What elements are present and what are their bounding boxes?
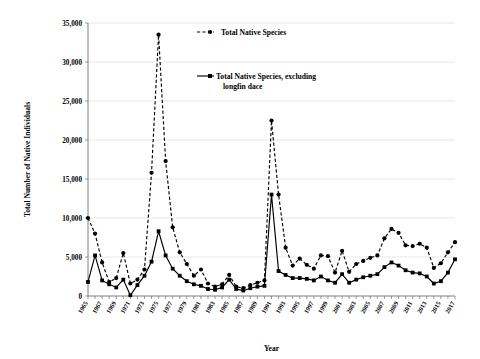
data-point	[185, 262, 189, 266]
data-point	[453, 257, 457, 261]
data-point	[269, 118, 273, 122]
data-point	[142, 267, 146, 271]
data-point	[326, 254, 330, 258]
data-point	[213, 288, 217, 292]
x-tick-label: 1991	[260, 300, 272, 315]
data-point	[199, 284, 203, 288]
data-point	[319, 275, 323, 279]
x-tick-label: 1975	[147, 300, 159, 315]
y-tick-label: 5,000	[66, 254, 83, 262]
data-point	[114, 276, 118, 280]
data-point	[319, 253, 323, 257]
data-point	[354, 278, 358, 282]
data-point	[255, 281, 259, 285]
data-point	[121, 251, 125, 255]
data-point	[270, 193, 274, 197]
x-tick-label: 2015	[429, 300, 441, 315]
data-point	[418, 242, 422, 246]
data-point	[199, 267, 203, 271]
x-tick-label: 1999	[316, 300, 328, 315]
x-tick-label: 2011	[401, 300, 413, 314]
data-point	[291, 276, 295, 280]
data-point	[368, 256, 372, 260]
y-tick-label: 30,000	[62, 59, 82, 67]
data-point	[277, 269, 281, 273]
data-point	[439, 279, 443, 283]
y-tick-label: 25,000	[62, 98, 82, 106]
legend-label-0: Total Native Species	[221, 28, 286, 37]
x-tick-label: 1977	[161, 299, 174, 314]
data-point	[206, 287, 210, 291]
data-point	[255, 285, 259, 289]
data-point	[396, 231, 400, 235]
chart-container: 05,00010,00015,00020,00025,00030,00035,0…	[0, 0, 480, 359]
data-point	[354, 262, 358, 266]
data-point	[227, 278, 231, 282]
y-tick-label: 35,000	[62, 20, 82, 28]
data-point	[100, 279, 104, 283]
data-point	[114, 286, 118, 290]
x-tick-label: 1965	[76, 300, 88, 315]
data-point	[192, 282, 196, 286]
y-tick-label: 0	[78, 293, 82, 301]
data-point	[86, 280, 90, 284]
data-point	[128, 293, 132, 297]
data-point	[93, 254, 97, 258]
data-point	[284, 273, 288, 277]
data-point	[291, 263, 295, 267]
data-point	[178, 250, 182, 254]
legend-marker-square	[208, 74, 212, 78]
data-point	[192, 274, 196, 278]
data-point	[312, 267, 316, 271]
x-tick-label: 1985	[218, 300, 230, 315]
data-point	[418, 271, 422, 275]
series-line-1	[88, 195, 455, 296]
data-point	[361, 259, 365, 263]
data-point	[164, 159, 168, 163]
data-point	[100, 260, 104, 264]
data-point	[276, 193, 280, 197]
data-point	[411, 271, 415, 275]
line-chart: 05,00010,00015,00020,00025,00030,00035,0…	[0, 0, 480, 359]
x-tick-label: 2017	[443, 299, 456, 314]
x-tick-label: 2007	[373, 299, 386, 314]
x-tick-label: 1989	[246, 300, 258, 315]
data-point	[220, 286, 224, 290]
y-tick-label: 15,000	[62, 176, 82, 184]
data-point	[164, 254, 168, 258]
data-point	[149, 171, 153, 175]
x-tick-label: 1971	[119, 300, 131, 315]
data-point	[411, 244, 415, 248]
x-tick-label: 1979	[175, 300, 187, 315]
data-point	[397, 264, 401, 268]
x-tick-label: 1995	[288, 300, 300, 315]
data-point	[375, 253, 379, 257]
data-point	[390, 261, 394, 265]
data-point	[284, 246, 288, 250]
x-tick-label: 2001	[330, 300, 342, 315]
data-point	[305, 277, 309, 281]
data-point	[143, 274, 147, 278]
data-point	[439, 261, 443, 265]
data-point	[107, 282, 111, 286]
data-point	[446, 271, 450, 275]
data-point	[234, 287, 238, 291]
data-point	[93, 232, 97, 236]
data-point	[453, 240, 457, 244]
data-point	[333, 281, 337, 285]
y-tick-label: 10,000	[62, 215, 82, 223]
x-axis-title: Year	[264, 344, 280, 353]
y-axis-title: Total Number of Native Individuals	[23, 102, 32, 217]
x-tick-label: 2009	[387, 300, 399, 315]
data-point	[340, 249, 344, 253]
data-point	[298, 256, 302, 260]
legend-label-1-line2: longfin dace	[223, 82, 263, 91]
data-point	[425, 275, 429, 279]
data-point	[425, 246, 429, 250]
data-point	[178, 274, 182, 278]
data-point	[347, 281, 351, 285]
data-point	[383, 265, 387, 269]
data-point	[135, 278, 139, 282]
x-tick-label: 2013	[415, 300, 427, 315]
data-point	[206, 281, 210, 285]
